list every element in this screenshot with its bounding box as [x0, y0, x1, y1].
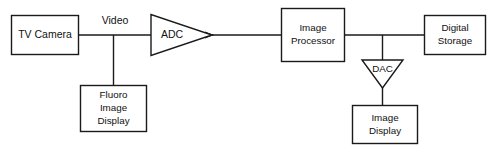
dac-label: DAC [372, 63, 393, 74]
digital-storage-label-line2: Storage [438, 35, 473, 46]
node-dac: DAC [362, 60, 403, 88]
adc-label: ADC [161, 28, 184, 40]
block-diagram: TV Camera Video ADC Fluoro Image Display… [0, 0, 498, 152]
fluoro-image-display-label-line3: Display [97, 115, 129, 126]
fluoro-image-display-label-line2: Image [100, 102, 128, 113]
node-digital-storage: Digital Storage [425, 16, 486, 55]
node-image-processor: Image Processor [282, 9, 345, 62]
node-tv-camera: TV Camera [12, 16, 79, 55]
tv-camera-label: TV Camera [18, 28, 72, 40]
node-image-display: Image Display [353, 106, 418, 144]
image-processor-label-line1: Image [299, 22, 327, 33]
video-connector-label: Video [102, 14, 129, 26]
node-adc: ADC [151, 15, 212, 56]
fluoro-image-display-label-line1: Fluoro [100, 89, 128, 100]
node-fluoro-image-display: Fluoro Image Display [81, 86, 147, 132]
image-display-label-line1: Image [371, 112, 399, 123]
diagram-canvas: TV Camera Video ADC Fluoro Image Display… [0, 0, 498, 152]
image-display-label-line2: Display [369, 125, 401, 136]
digital-storage-label-line1: Digital [441, 22, 468, 33]
image-processor-label-line2: Processor [291, 35, 336, 46]
